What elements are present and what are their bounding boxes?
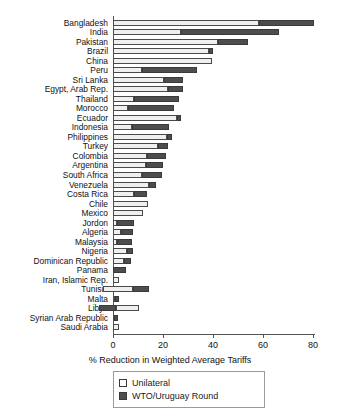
country-label: Bangladesh [64, 19, 108, 27]
bar-segment-wto [142, 67, 197, 73]
x-tick-label: 40 [198, 340, 228, 350]
bar-row [113, 239, 313, 245]
bar-segment-wto [158, 143, 168, 149]
bar-segment-wto [99, 305, 115, 311]
bar-segment-unilateral [113, 48, 209, 54]
bar-segment-wto [147, 153, 166, 159]
bar-segment-unilateral [113, 229, 121, 235]
bar-segment-wto [114, 315, 118, 321]
bar-segment-unilateral [113, 201, 148, 207]
bar-row [113, 267, 313, 273]
bar-row [113, 105, 313, 111]
country-label: Turkey [83, 142, 108, 150]
country-label: Philippines [67, 133, 108, 141]
country-label: India [90, 28, 108, 36]
bar-segment-unilateral [113, 124, 132, 130]
x-tick [113, 334, 114, 338]
bar-row [113, 220, 313, 226]
country-label: Iran, Islamic Rep. [43, 276, 108, 284]
bar-segment-unilateral [113, 134, 167, 140]
bar-segment-wto [134, 96, 179, 102]
bar-segment-unilateral [113, 153, 147, 159]
plot-area [113, 18, 313, 332]
country-label: Syrian Arab Republic [30, 314, 108, 322]
bar-segment-unilateral [113, 277, 119, 283]
bar-segment-unilateral [113, 29, 181, 35]
country-label: Peru [90, 66, 108, 74]
bar-row [113, 86, 313, 92]
bar-row [113, 48, 313, 54]
bar-segment-wto [133, 286, 149, 292]
bar-row [113, 134, 313, 140]
bar-segment-unilateral [103, 286, 133, 292]
x-tick [313, 334, 314, 338]
bar-segment-wto [121, 229, 134, 235]
country-label: Jordon [82, 219, 108, 227]
country-label: Mexico [81, 209, 108, 217]
legend-swatch-unilateral-icon [119, 379, 127, 387]
bar-row [113, 315, 313, 321]
bar-segment-unilateral [113, 258, 124, 264]
bar-segment-wto [168, 86, 183, 92]
bar-segment-unilateral [113, 105, 128, 111]
country-label: Sri Lanka [73, 76, 108, 84]
chart-legend: Unilateral WTO/Uruguay Round [113, 371, 265, 408]
bar-row [113, 210, 313, 216]
bar-segment-unilateral [113, 172, 142, 178]
bar-row [113, 286, 313, 292]
country-label: Dominican Republic [34, 257, 108, 265]
country-label: Colombia [73, 152, 108, 160]
x-tick-label: 0 [98, 340, 128, 350]
bar-segment-unilateral [113, 96, 134, 102]
country-label: Chile [89, 200, 108, 208]
bar-segment-unilateral [113, 86, 168, 92]
bar-row [113, 248, 313, 254]
country-label: Malaysia [75, 238, 108, 246]
country-label: South Africa [63, 171, 108, 179]
bar-row [113, 172, 313, 178]
country-label: Ecuador [77, 114, 108, 122]
tariff-reduction-chart: BangladeshIndiaPakistanBrazilChinaPeruSr… [0, 0, 340, 415]
bar-segment-wto [132, 124, 170, 130]
bar-row [113, 229, 313, 235]
bar-segment-wto [142, 172, 162, 178]
country-label: Nigeria [81, 247, 108, 255]
bar-segment-unilateral [113, 191, 134, 197]
country-label: Brazil [87, 47, 108, 55]
country-label: Egypt, Arab Rep. [45, 85, 108, 93]
bar-row [113, 296, 313, 302]
country-label: Argentina [72, 161, 108, 169]
x-tick-label: 60 [248, 340, 278, 350]
bar-segment-unilateral [113, 39, 218, 45]
bar-row [113, 191, 313, 197]
bar-segment-unilateral [113, 182, 149, 188]
country-label: Thailand [76, 95, 108, 103]
bar-segment-unilateral [113, 210, 143, 216]
bar-row [113, 305, 313, 311]
country-label: Algeria [82, 228, 108, 236]
bar-row [113, 162, 313, 168]
bar-row [113, 39, 313, 45]
country-label: Malta [88, 295, 108, 303]
bar-row [113, 20, 313, 26]
bar-segment-wto [146, 162, 164, 168]
x-tick-label: 80 [298, 340, 328, 350]
x-axis-line [113, 334, 315, 335]
bar-segment-wto [127, 248, 133, 254]
country-label: Pakistan [76, 38, 108, 46]
country-label: China [86, 57, 108, 65]
bar-row [113, 96, 313, 102]
bar-segment-unilateral [113, 77, 164, 83]
bar-segment-wto [117, 239, 132, 245]
country-label: Panama [77, 266, 108, 274]
bar-segment-unilateral [113, 67, 142, 73]
bar-row [113, 115, 313, 121]
bar-row [113, 153, 313, 159]
x-axis-title: % Reduction in Weighted Average Tariffs [0, 355, 340, 365]
bar-segment-wto [124, 258, 130, 264]
bar-segment-wto [128, 105, 174, 111]
legend-label-unilateral: Unilateral [132, 377, 170, 389]
country-label-column: BangladeshIndiaPakistanBrazilChinaPeruSr… [0, 18, 108, 332]
bar-segment-unilateral [113, 20, 259, 26]
legend-item-wto: WTO/Uruguay Round [119, 390, 258, 402]
